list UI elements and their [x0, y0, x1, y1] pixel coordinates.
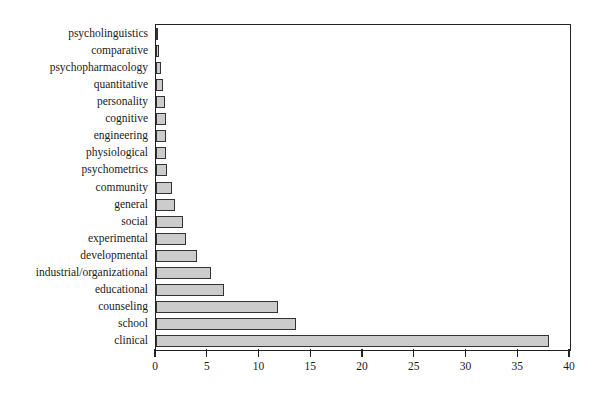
axis-tick-label: 10 [253, 360, 265, 372]
bar [156, 164, 167, 176]
category-label: physiological [86, 143, 148, 161]
axis-tick-label: 5 [204, 360, 210, 372]
bar [156, 301, 278, 313]
bar [156, 267, 211, 279]
category-label: school [118, 314, 148, 332]
category-label: personality [97, 92, 148, 110]
axis-tick [258, 349, 259, 357]
axis-tick-label: 40 [563, 360, 575, 372]
axis-tick [206, 349, 207, 357]
bar [156, 182, 172, 194]
category-label: social [121, 212, 148, 230]
axis-tick [310, 349, 311, 357]
bar [156, 199, 175, 211]
bar [156, 147, 166, 159]
axis-tick [517, 349, 518, 357]
category-axis-labels: psycholinguisticscomparativepsychopharma… [0, 24, 152, 349]
axis-tick [465, 349, 466, 357]
bar [156, 318, 296, 330]
axis-tick-label: 30 [460, 360, 472, 372]
bar-series [156, 25, 570, 350]
axis-tick-label: 35 [512, 360, 524, 372]
chart-container: psycholinguisticscomparativepsychopharma… [0, 0, 602, 415]
category-label: counseling [98, 297, 148, 315]
bar [156, 45, 159, 57]
category-label: industrial/organizational [36, 263, 148, 281]
plot-area [155, 24, 571, 351]
category-label: comparative [91, 41, 148, 59]
axis-tick [361, 349, 362, 357]
category-label: community [96, 178, 148, 196]
category-label: psychopharmacology [50, 58, 148, 76]
category-label: general [114, 195, 148, 213]
bar [156, 28, 158, 40]
bar [156, 96, 165, 108]
axis-tick [154, 349, 155, 357]
category-label: developmental [80, 246, 148, 264]
bar [156, 130, 166, 142]
bar [156, 335, 549, 347]
category-label: clinical [114, 331, 148, 349]
category-label: cognitive [105, 109, 148, 127]
category-label: experimental [88, 229, 148, 247]
category-label: engineering [94, 126, 148, 144]
category-label: quantitative [94, 75, 148, 93]
bar [156, 62, 161, 74]
bar [156, 113, 166, 125]
axis-tick-label: 25 [408, 360, 420, 372]
category-label: psychometrics [82, 160, 148, 178]
category-label: educational [95, 280, 148, 298]
axis-tick-label: 15 [305, 360, 317, 372]
bar [156, 216, 183, 228]
axis-tick-label: 20 [356, 360, 368, 372]
bar [156, 233, 186, 245]
axis-tick [568, 349, 569, 357]
bar [156, 250, 197, 262]
axis-tick-label: 0 [152, 360, 158, 372]
category-label: psycholinguistics [68, 24, 148, 42]
value-axis: 0510152025303540 [155, 349, 569, 389]
axis-tick [413, 349, 414, 357]
bar [156, 284, 224, 296]
bar [156, 79, 163, 91]
